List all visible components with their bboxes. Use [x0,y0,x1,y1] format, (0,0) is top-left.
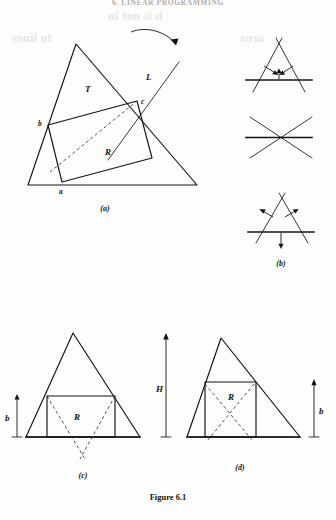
figure-page: h is not in to lines area 6. LINEAR PROG… [0,0,336,520]
label-H: H [155,384,164,394]
c-dashed-left [47,396,85,459]
d-height-marker-b: b [309,379,324,437]
figure-caption: Figure 6.1 [0,492,336,502]
panel-a-key: (a) [100,204,110,213]
c-label-b: b [5,413,10,423]
line-l [108,62,179,160]
height-marker-H: H [155,333,171,437]
c-rectangle-r-outline [47,396,115,437]
panel-b-key: (b) [276,259,286,268]
rotation-arrow-icon [131,29,179,45]
rectangle-r-diagonal [50,101,137,172]
d-triangle-outline [187,338,300,437]
panel-a: T L R a b c (a) [28,29,197,213]
label-t: T [85,84,91,94]
label-point-a: a [59,187,63,196]
b3-right-line [279,193,308,243]
c-label-r: R [73,412,80,422]
panel-b-diagram-inward [246,38,312,92]
b1-right-line [276,38,305,92]
label-r: R [104,147,111,157]
d-label-b: b [319,406,324,416]
rectangle-r-outline [48,101,152,182]
panel-c: R b (c) [5,333,140,480]
panel-d: R b (d) [187,338,324,472]
panel-b-diagram-degenerate [246,117,312,158]
d-label-r: R [227,392,234,402]
c-triangle-outline [26,333,140,437]
b1-left-line [253,38,282,92]
label-point-c: c [141,97,145,106]
panel-b-diagram-outward [248,193,314,249]
panel-d-key: (d) [235,463,245,472]
c-height-marker-b: b [5,394,22,437]
panel-b: (b) [246,38,314,268]
c-dashed-right [80,396,115,459]
panel-c-key: (c) [79,471,88,480]
figure-6-1-artwork: T L R a b c (a) [0,0,336,520]
label-point-b: b [38,119,42,128]
triangle-t-outline [28,44,197,185]
label-l: L [145,72,152,82]
